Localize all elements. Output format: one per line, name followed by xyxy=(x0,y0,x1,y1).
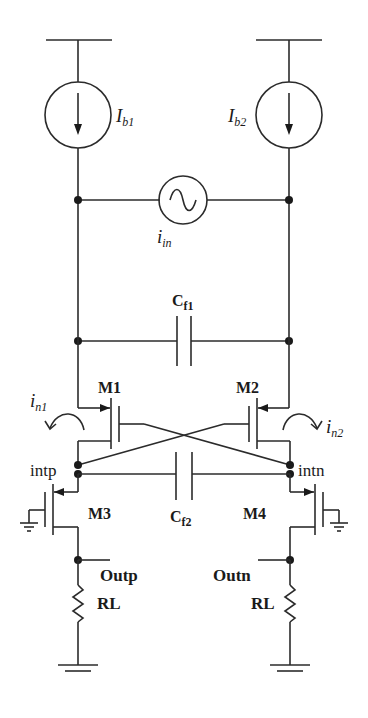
label-intp: intp xyxy=(30,461,56,480)
sine-wave-icon xyxy=(170,190,196,211)
transistor-m3 xyxy=(20,474,78,560)
label-ib1: Ib1 xyxy=(115,105,134,129)
label-m3: M3 xyxy=(88,505,111,522)
arrow-head-icon xyxy=(74,124,82,135)
circuit-schematic: Ib1 Ib2 iin Cf1 M1 xyxy=(0,0,368,718)
noise-arrow-in1-icon xyxy=(50,414,84,430)
node-dot xyxy=(286,461,294,469)
label-outp: Outp xyxy=(100,566,138,585)
current-source-ib2 xyxy=(256,82,322,148)
cross-wire xyxy=(144,424,290,465)
current-source-ib1 xyxy=(45,82,111,148)
label-cf2: Cf2 xyxy=(170,508,192,529)
label-cf1: Cf1 xyxy=(172,292,194,313)
node-dot xyxy=(74,196,82,204)
label-m1: M1 xyxy=(98,379,121,396)
label-ib2: Ib2 xyxy=(227,105,246,129)
label-m4: M4 xyxy=(243,505,266,522)
label-m2: M2 xyxy=(236,379,259,396)
label-iin: iin xyxy=(157,226,172,250)
label-intn: intn xyxy=(298,461,325,480)
label-outn: Outn xyxy=(213,566,251,585)
source-arrow-icon xyxy=(304,488,314,496)
source-arrow-icon xyxy=(54,488,64,496)
source-arrow-icon xyxy=(258,404,268,412)
arrow-head-icon xyxy=(285,124,293,135)
label-rl-right: RL xyxy=(251,594,275,613)
label-rl-left: RL xyxy=(97,594,121,613)
resistor-rl-left xyxy=(73,585,83,622)
noise-arrow-in2-icon xyxy=(283,414,317,430)
transistor-m4 xyxy=(290,474,348,560)
source-arrow-icon xyxy=(100,404,110,412)
node-dot xyxy=(285,196,293,204)
node-dot xyxy=(74,461,82,469)
resistor-rl-right xyxy=(285,585,295,622)
label-in2: in2 xyxy=(326,416,343,440)
cross-wire xyxy=(78,424,224,465)
label-in1: in1 xyxy=(30,390,47,414)
